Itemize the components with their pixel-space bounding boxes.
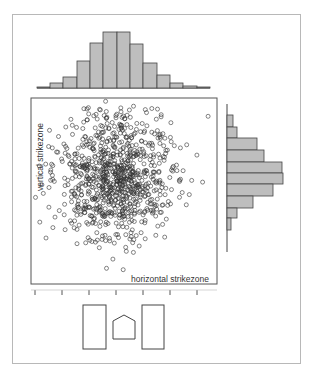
histogram-bar (227, 127, 237, 138)
x-axis-ticks (31, 290, 217, 295)
histogram-bar (170, 83, 183, 88)
histogram-bar (143, 63, 157, 88)
histogram-bar (157, 75, 170, 88)
strikezone-diagram (83, 305, 164, 349)
home-plate-icon (113, 315, 135, 339)
histogram-bar (197, 87, 210, 88)
histogram-bar (227, 138, 257, 150)
histogram-bar (227, 218, 231, 230)
top-histogram (37, 32, 210, 88)
histogram-bar (63, 77, 77, 88)
histogram-bar (227, 184, 273, 196)
histogram-bar (50, 83, 63, 88)
histogram-bar (103, 32, 117, 88)
histogram-bar (77, 61, 90, 88)
histogram-bar (117, 32, 130, 88)
right-histogram (227, 104, 283, 252)
histogram-bar (227, 208, 237, 218)
histogram-bar (37, 87, 50, 88)
histogram-bar (227, 115, 233, 127)
y-axis-label: vertical strikezone (35, 123, 45, 191)
histogram-bar (183, 86, 197, 88)
histogram-bar (130, 44, 143, 88)
left-batter-box (83, 305, 106, 349)
histogram-bar (227, 196, 253, 208)
right-batter-box (142, 305, 164, 349)
scatter-hist-chart: vertical strikezone horizontal strikezon… (0, 0, 315, 378)
histogram-bar (227, 150, 264, 162)
scatter-points (34, 99, 211, 271)
histogram-bar (227, 162, 282, 173)
x-axis-label: horizontal strikezone (131, 274, 209, 284)
histogram-bar (227, 173, 283, 184)
histogram-bar (90, 43, 103, 88)
